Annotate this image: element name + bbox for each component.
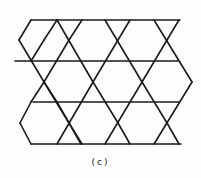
lattice-line (69, 123, 82, 144)
lattice-line (118, 123, 130, 144)
lattice-line (20, 123, 31, 144)
lattice-line (31, 82, 44, 102)
lattice-line (167, 123, 179, 144)
lattice-line (57, 102, 69, 123)
lattice-line (44, 82, 57, 102)
figure-caption: (c) (0, 157, 201, 167)
lattice-line (19, 20, 31, 40)
lattice-line (118, 20, 130, 40)
lattice-line (69, 20, 82, 40)
lattice-line (31, 40, 44, 61)
lattice-line (20, 102, 31, 123)
lattice-line (105, 82, 142, 144)
kagome-lattice-diagram (0, 0, 201, 178)
lattice-line (167, 20, 179, 40)
lattice-line (44, 20, 57, 40)
